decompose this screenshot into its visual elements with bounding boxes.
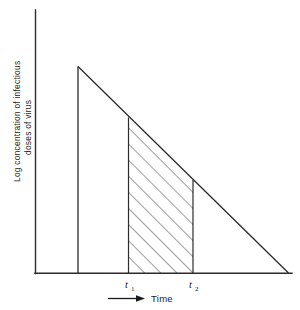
tick-label-t2-subscript: 2 <box>195 285 199 293</box>
tick-label-t1-subscript: 1 <box>131 285 135 293</box>
x-axis-title: Time <box>151 293 173 304</box>
y-axis-label-line2: doses of virus <box>23 100 33 155</box>
virus-decay-chart: Log concentration of infectious doses of… <box>0 0 300 310</box>
y-axis-label-line1: Log concentration of infectious <box>12 61 22 182</box>
